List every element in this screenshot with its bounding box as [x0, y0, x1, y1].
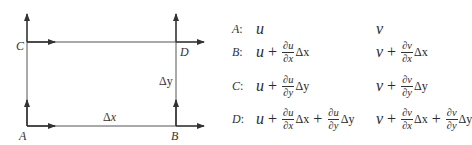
v-expression-c: v + ∂v∂y Δy	[376, 75, 428, 97]
equation-row-c: C:	[232, 75, 256, 97]
equation-row-b: B:	[232, 41, 256, 63]
point-label-a: A	[19, 130, 26, 142]
point-label-b: B	[171, 130, 178, 142]
v-expression-b: v + ∂v∂x Δx	[376, 41, 428, 63]
u-expression-c: u + ∂u∂y Δy	[256, 75, 309, 97]
delta-y-label: Δy	[159, 75, 173, 87]
point-label-d: D	[180, 46, 189, 58]
v-expression-a: v	[376, 18, 383, 40]
u-expression-d: u + ∂u∂x Δx + ∂u∂y Δy	[256, 108, 354, 130]
equation-row-a: A:	[232, 18, 256, 40]
row-point-label: C:	[232, 79, 256, 94]
u-expression-a: u	[256, 18, 264, 40]
u-expression-b: u + ∂u∂x Δx	[256, 41, 309, 63]
point-label-c: C	[16, 40, 24, 52]
v-expression-d: v + ∂v∂x Δx + ∂v∂y Δy	[376, 108, 472, 130]
equation-row-d: D:	[232, 108, 256, 130]
row-point-label: B:	[232, 45, 256, 60]
delta-x-label: Δx	[103, 111, 116, 123]
row-point-label: D:	[232, 112, 256, 127]
row-point-label: A:	[232, 22, 256, 37]
